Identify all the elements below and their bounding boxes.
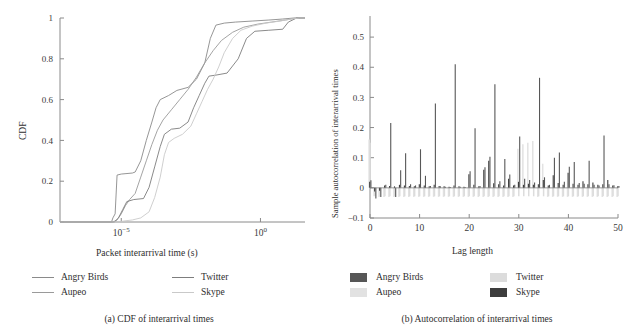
legend-color-swatch	[350, 273, 367, 282]
legend-item-aupeo[interactable]: Aupeo	[32, 287, 86, 297]
legend-color-swatch	[490, 273, 507, 282]
autocorrelation-x-tick-label: 30	[514, 223, 524, 233]
cdf-y-tick-label: 1	[49, 13, 54, 23]
autocorrelation-y-tick-label: 0.1	[353, 153, 364, 163]
autocorrelation-plot-svg: −0.100.10.20.30.40.501020304050	[318, 0, 636, 265]
autocorrelation-x-tick-label: 50	[613, 223, 623, 233]
panel-a-caption: (a) CDF of interarrival times	[0, 314, 318, 324]
autocorrelation-series-aupeo	[369, 140, 617, 197]
legend-line-swatch	[32, 277, 54, 278]
cdf-y-tick-label: 0.2	[42, 176, 53, 186]
cdf-series-line	[60, 18, 305, 222]
cdf-series-line	[60, 18, 305, 222]
legend-item-angry-birds[interactable]: Angry Birds	[350, 272, 423, 282]
cdf-y-tick-label: 0.4	[42, 136, 54, 146]
legend-item-label: Angry Birds	[376, 272, 423, 282]
legend-line-swatch	[172, 277, 194, 278]
autocorrelation-x-tick-label: 40	[564, 223, 574, 233]
cdf-y-tick-label: 0	[49, 217, 54, 227]
autocorrelation-y-tick-label: 0	[360, 183, 365, 193]
autocorrelation-legend: Angry BirdsAupeoTwitterSkype	[318, 272, 636, 304]
autocorrelation-x-tick-label: 20	[464, 223, 474, 233]
legend-item-label: Aupeo	[376, 287, 401, 297]
cdf-plot-svg: 00.20.40.60.8110−5100	[0, 0, 318, 265]
autocorrelation-y-tick-label: 0.2	[353, 123, 364, 133]
legend-item-label: Skype	[516, 287, 540, 297]
cdf-y-tick-label: 0.8	[42, 54, 54, 64]
figure-container: 00.20.40.60.8110−5100 CDF Packet interar…	[0, 0, 636, 336]
panel-cdf: 00.20.40.60.8110−5100 CDF Packet interar…	[0, 0, 318, 336]
legend-item-angry-birds[interactable]: Angry Birds	[32, 272, 108, 282]
legend-item-label: Twitter	[201, 272, 228, 282]
cdf-y-axis-title: CDF	[18, 122, 28, 140]
legend-item-skype[interactable]: Skype	[490, 287, 540, 297]
cdf-x-tick-label: 100	[254, 226, 268, 238]
autocorrelation-y-tick-label: 0.5	[353, 32, 365, 42]
legend-item-twitter[interactable]: Twitter	[172, 272, 228, 282]
cdf-x-axis-title: Packet interarrival time (s)	[96, 248, 198, 258]
autocorrelation-y-tick-label: −0.1	[348, 213, 364, 223]
legend-item-label: Twitter	[516, 272, 543, 282]
autocorrelation-y-tick-label: 0.3	[353, 93, 365, 103]
legend-line-swatch	[32, 292, 54, 293]
autocorrelation-y-axis-title: Sample autocorrelation of interarrival t…	[330, 69, 340, 218]
panel-b-caption: (b) Autocorrelation of interarrival time…	[318, 314, 636, 324]
legend-item-label: Angry Birds	[61, 272, 108, 282]
autocorrelation-y-tick-label: 0.4	[353, 62, 365, 72]
autocorrelation-x-axis-title: Lag length	[452, 246, 493, 256]
autocorrelation-series-twitter	[370, 143, 618, 197]
legend-item-skype[interactable]: Skype	[172, 287, 225, 297]
legend-color-swatch	[350, 288, 367, 297]
legend-item-label: Aupeo	[61, 287, 86, 297]
cdf-series-line	[60, 18, 305, 222]
cdf-series-line	[60, 18, 305, 222]
cdf-legend: Angry BirdsAupeoTwitterSkype	[0, 272, 318, 304]
legend-line-swatch	[172, 292, 194, 293]
cdf-y-tick-label: 0.6	[42, 95, 54, 105]
cdf-x-tick-label: 10−5	[113, 226, 130, 238]
legend-item-label: Skype	[201, 287, 225, 297]
autocorrelation-x-tick-label: 10	[415, 223, 425, 233]
autocorrelation-x-tick-label: 0	[368, 223, 373, 233]
autocorrelation-series-skype	[370, 161, 618, 192]
autocorrelation-series-angry-birds	[371, 64, 619, 198]
legend-item-twitter[interactable]: Twitter	[490, 272, 543, 282]
panel-autocorrelation: −0.100.10.20.30.40.501020304050 Sample a…	[318, 0, 636, 336]
legend-item-aupeo[interactable]: Aupeo	[350, 287, 401, 297]
legend-color-swatch	[490, 288, 507, 297]
